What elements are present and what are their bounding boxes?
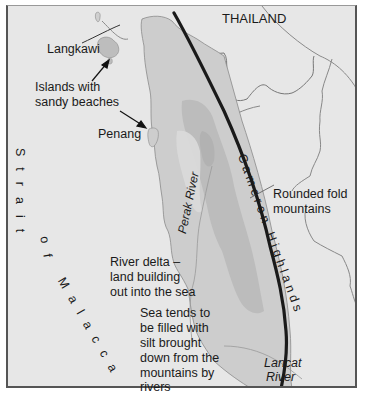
arrow-to-langkawi [92,60,109,81]
label-lancat-river-2: River [266,370,295,384]
label-fold-mountains-2: mountains [273,202,331,216]
label-silt-2: be filled with [140,321,209,335]
label-river-delta-2: land building [110,270,180,284]
label-islands-note-1: Islands with [35,80,100,94]
label-river-delta-3: out into the sea [110,285,195,299]
state-border [305,206,357,311]
label-langkawi: Langkawi [47,42,100,56]
islet [95,12,100,22]
label-silt-6: rivers [140,380,171,394]
label-river-delta-1: River delta – [110,255,180,269]
label-fold-mountains-1: Rounded fold [273,187,347,201]
langkawi-island [98,37,119,58]
label-lancat-river-1: Lancat [264,356,302,370]
label-thailand: THAILAND [222,12,286,26]
label-strait: Strait [13,148,27,243]
label-silt-5: mountains by [140,366,214,380]
label-silt-1: Sea tends to [140,306,210,320]
arrow-to-penang [120,111,146,128]
label-silt-4: down from the [140,351,219,365]
label-penang: Penang [98,127,141,141]
label-silt-3: silt brought [140,336,201,350]
label-islands-note-2: sandy beaches [35,95,119,109]
